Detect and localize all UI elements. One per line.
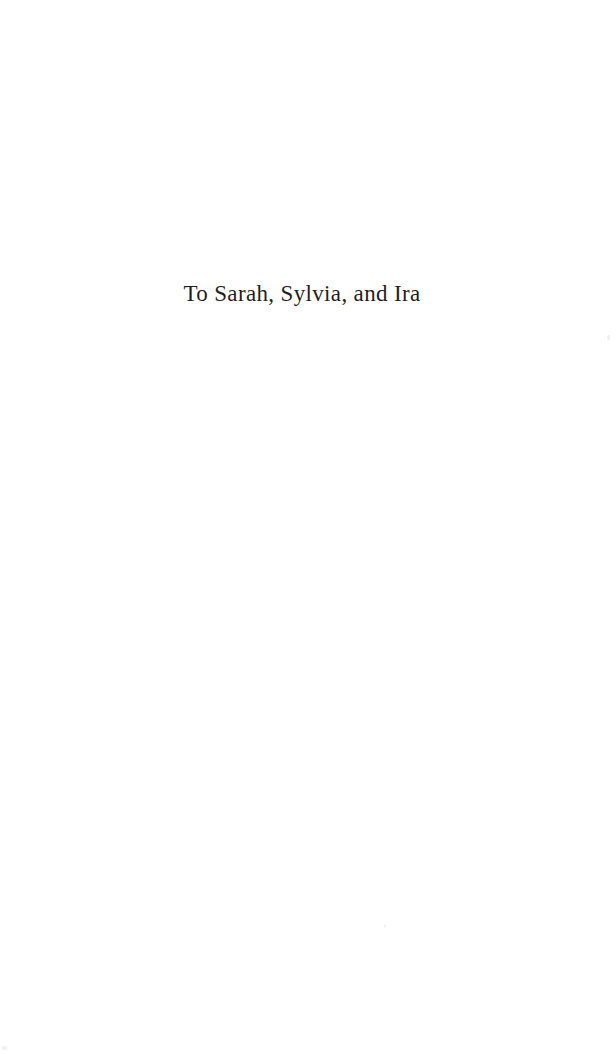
book-page: To Sarah, Sylvia, and Ira (0, 0, 616, 1054)
dedication-text: To Sarah, Sylvia, and Ira (183, 281, 420, 307)
scan-speck-right-edge (607, 335, 610, 340)
scan-speck-bottom-left-corner (2, 1046, 7, 1050)
dedication-block: To Sarah, Sylvia, and Ira (0, 281, 616, 307)
scan-speck-lower-middle (384, 924, 386, 928)
